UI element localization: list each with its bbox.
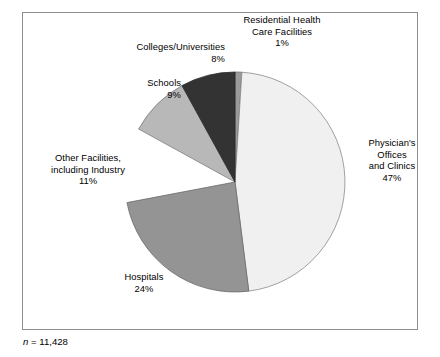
sample-size-footnote: n = 11,428 [23,336,68,347]
label-line: Colleges/Universities [136,41,225,52]
label-line: Schools [147,77,181,88]
label-percent: 47% [346,172,438,184]
label-percent: 8% [85,53,225,65]
pie-chart-figure: Residential Health Care Facilities 1% Co… [0,0,440,357]
label-line: and Clinics [369,160,415,171]
label-line: Care Facilities [252,26,312,37]
slice-label-schools: Schools 9% [85,77,181,100]
slice-label-residential-health-care-facilities: Residential Health Care Facilities 1% [214,14,350,49]
label-line: Residential Health [244,14,321,25]
label-percent: 24% [86,283,202,295]
footnote-value: = 11,428 [28,336,68,347]
label-percent: 1% [214,37,350,49]
slice-label-colleges-universities: Colleges/Universities 8% [85,41,225,64]
label-line: Hospitals [124,271,163,282]
label-line: Other Facilities, [55,152,121,163]
label-line: including Industry [51,164,125,175]
label-percent: 11% [18,175,158,187]
slice-label-physicians-offices-and-clinics: Physician's Offices and Clinics 47% [346,137,438,183]
label-line: Physician's [368,137,415,148]
slice-label-other-facilities-including-industry: Other Facilities, including Industry 11% [18,152,158,187]
pie-slice [235,72,345,291]
label-line: Offices [377,149,406,160]
label-percent: 9% [85,89,181,101]
slice-label-hospitals: Hospitals 24% [86,271,202,294]
